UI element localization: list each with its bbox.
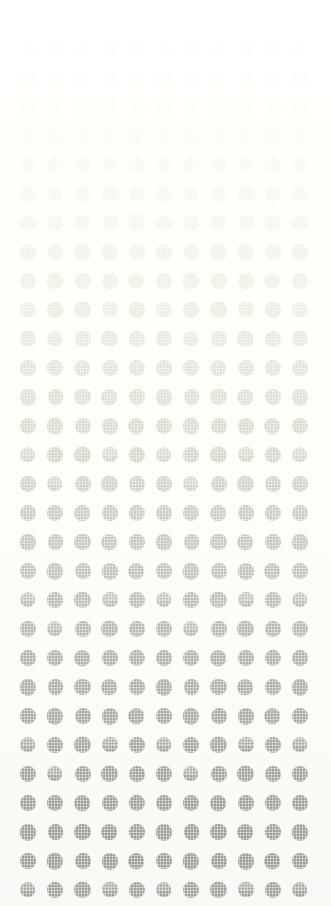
dot-mark [20, 621, 36, 637]
dot-mark [101, 186, 117, 202]
dot-mark [20, 766, 36, 782]
dot-mark [102, 795, 118, 811]
dot-mark [264, 360, 280, 376]
dot-mark [265, 591, 281, 607]
dot-mark [129, 766, 145, 782]
dot-mark [265, 564, 281, 580]
dot-mark [101, 331, 117, 347]
dot-mark [128, 505, 144, 521]
dot-mark [292, 41, 308, 57]
dot-mark [47, 882, 63, 898]
dot-mark [183, 331, 199, 347]
dot-mark [21, 505, 37, 521]
dot-mark [20, 12, 36, 28]
dot-mark [210, 534, 226, 550]
dot-mark [156, 302, 172, 318]
dot-mark [292, 534, 308, 550]
dot-mark [47, 70, 63, 86]
dot-mark [129, 709, 145, 725]
dot-mark [128, 360, 144, 376]
dot-mark [210, 505, 226, 521]
dot-mark [129, 854, 145, 870]
dot-mark [128, 70, 144, 86]
dot-mark [183, 650, 199, 666]
dot-mark [21, 360, 37, 376]
dot-mark [292, 563, 308, 579]
dot-mark [292, 244, 308, 260]
dot-mark [211, 476, 227, 492]
dot-mark [157, 360, 173, 376]
dot-mark [75, 564, 91, 580]
dot-mark [20, 244, 36, 260]
dot-mark [101, 824, 117, 840]
dot-mark [183, 795, 199, 811]
dot-mark [20, 418, 36, 434]
pattern-canvas [0, 0, 331, 906]
dot-mark [264, 505, 280, 521]
dot-mark [20, 476, 36, 492]
dot-mark [156, 621, 172, 637]
dot-mark [265, 11, 281, 27]
dot-mark [128, 215, 144, 231]
dot-mark [102, 505, 118, 521]
dot-mark [129, 274, 145, 290]
dot-mark [265, 766, 281, 782]
dot-mark [292, 708, 308, 724]
dot-mark [210, 244, 226, 260]
dot-mark [183, 273, 199, 289]
dot-mark [211, 709, 227, 725]
dot-mark [20, 41, 36, 57]
dot-mark [75, 476, 91, 492]
dot-mark [265, 156, 281, 172]
dot-mark [102, 853, 118, 869]
dot-mark [210, 301, 226, 317]
dot-mark [74, 389, 90, 405]
dot-mark [47, 331, 63, 347]
dot-mark [211, 419, 227, 435]
dot-mark [129, 11, 145, 27]
dot-mark [102, 737, 118, 753]
dot-mark [265, 446, 281, 462]
dot-mark [129, 129, 145, 145]
dot-mark [237, 476, 253, 492]
dot-mark [156, 563, 172, 579]
dot-mark [157, 215, 173, 231]
dot-mark [210, 679, 226, 695]
dot-mark [20, 592, 36, 608]
dot-mark [129, 736, 145, 752]
dot-mark [102, 360, 118, 376]
dot-mark [183, 70, 199, 86]
dot-mark [156, 273, 172, 289]
dot-mark [156, 41, 172, 57]
dot-mark [183, 128, 199, 144]
dot-mark [48, 679, 64, 695]
dot-mark [183, 302, 199, 318]
dot-mark [75, 621, 91, 637]
dot-mark [47, 418, 63, 434]
dot-mark [156, 418, 172, 434]
dot-mark [74, 534, 90, 550]
dot-mark [101, 679, 117, 695]
dot-mark [238, 302, 254, 318]
dot-mark [292, 128, 308, 144]
dot-mark [265, 129, 281, 145]
dot-mark [183, 766, 199, 782]
dot-mark [74, 11, 90, 27]
dot-mark [75, 41, 91, 57]
dot-mark [211, 274, 227, 290]
dot-mark [20, 853, 36, 869]
dot-mark [292, 447, 308, 463]
dot-mark [129, 881, 145, 897]
dot-mark [237, 766, 253, 782]
dot-mark [48, 824, 64, 840]
dot-mark [74, 591, 90, 607]
dot-mark [20, 157, 36, 173]
dot-mark [265, 244, 281, 260]
dot-mark [48, 389, 64, 405]
dot-mark [265, 389, 281, 405]
dot-mark [21, 650, 37, 666]
dot-mark [210, 389, 226, 405]
dot-mark [292, 476, 308, 492]
dot-mark [157, 70, 173, 86]
dot-mark [47, 447, 63, 463]
